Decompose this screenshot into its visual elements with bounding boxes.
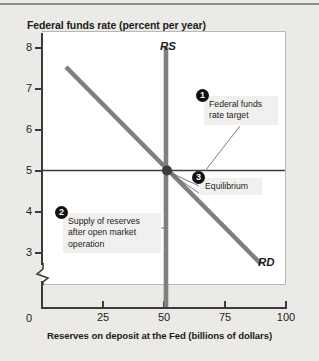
rs-curve-label: RS: [160, 40, 176, 52]
figure-container: Federal funds rate (percent per year) Re…: [0, 0, 319, 361]
callout-2-badge: 2: [55, 206, 68, 219]
callout-1-federal-funds-rate-target: Federal funds rate target: [204, 96, 278, 125]
y-tick-8: [35, 47, 43, 49]
y-tick-6: [35, 129, 43, 131]
top-divider-rule: [0, 3, 319, 5]
x-tick-50: [163, 301, 165, 309]
x-tick-label-25: 25: [83, 311, 123, 323]
x-tick-label-75: 75: [205, 311, 245, 323]
y-axis-line: [41, 33, 43, 265]
callout-3-badge: 3: [192, 171, 205, 184]
y-tick-label-3: 3: [12, 246, 32, 258]
y-axis-title: Federal funds rate (percent per year): [27, 19, 206, 31]
x-tick-75: [224, 301, 226, 309]
y-tick-3: [35, 252, 43, 254]
y-axis-break-icon: [34, 263, 52, 285]
y-tick-5: [35, 170, 43, 172]
callout-3-equilibrium: Equilibrium: [200, 178, 262, 195]
x-axis-title: Reserves on deposit at the Fed (billions…: [0, 330, 319, 341]
callout-1-badge: 1: [196, 89, 209, 102]
y-tick-label-6: 6: [12, 123, 32, 135]
y-tick-4: [35, 211, 43, 213]
callout-2-supply-of-reserves: Supply of reserves after open market ope…: [63, 213, 161, 253]
y-tick-label-5: 5: [12, 164, 32, 176]
x-tick-label-50: 50: [144, 311, 184, 323]
y-tick-7: [35, 88, 43, 90]
y-tick-label-7: 7: [12, 82, 32, 94]
y-tick-label-4: 4: [12, 205, 32, 217]
x-tick-25: [102, 301, 104, 309]
rd-curve-label: RD: [258, 256, 275, 268]
x-tick-100: [285, 301, 287, 309]
y-tick-label-0: 0: [12, 312, 32, 324]
y-axis-line-lower: [41, 281, 43, 309]
x-tick-label-100: 100: [266, 311, 306, 323]
y-tick-label-8: 8: [12, 41, 32, 53]
